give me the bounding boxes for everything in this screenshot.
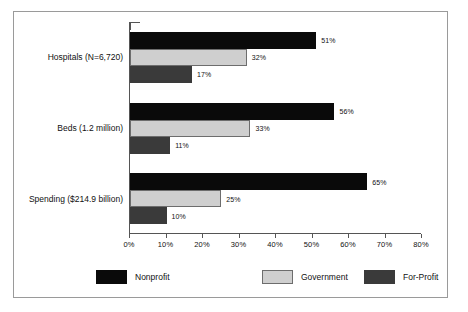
x-axis: 0%10%20%30%40%50%60%70%80% (129, 234, 421, 258)
x-axis-tick-label: 10% (158, 240, 173, 249)
x-axis-tick (421, 234, 422, 238)
plot-area: 51%32%17%56%33%11%65%25%10% (129, 22, 421, 234)
bar-government[interactable] (130, 49, 247, 66)
bar-row: 11% (130, 137, 421, 154)
legend-label: Government (301, 272, 348, 282)
x-axis-tick (385, 234, 386, 238)
legend-item-nonprofit[interactable]: Nonprofit (96, 270, 170, 284)
x-axis-tick (202, 234, 203, 238)
bar-group: 56%33%11% (130, 103, 421, 154)
bar-value-label: 56% (339, 108, 353, 115)
legend-item-government[interactable]: Government (262, 270, 348, 284)
bar-nonprofit[interactable] (130, 103, 334, 120)
bar-value-label: 10% (172, 212, 186, 219)
x-axis-tick-label: 80% (413, 240, 428, 249)
bar-value-label: 33% (255, 125, 269, 132)
bar-value-label: 11% (175, 142, 189, 149)
bar-nonprofit[interactable] (130, 173, 367, 190)
legend-swatch (262, 270, 293, 284)
bar-row: 33% (130, 120, 421, 137)
bar-row: 25% (130, 190, 421, 207)
x-axis-tick (239, 234, 240, 238)
chart-legend: NonprofitGovernmentFor-Profit (14, 270, 449, 296)
bar-row: 65% (130, 173, 421, 190)
bar-row: 10% (130, 207, 421, 224)
bar-for-profit[interactable] (130, 207, 167, 224)
legend-swatch (364, 270, 395, 284)
chart-figure: Hospitals (N=6,720)Beds (1.2 million)Spe… (13, 11, 448, 298)
bar-row: 51% (130, 32, 421, 49)
legend-label: For-Profit (403, 272, 438, 282)
category-label: Beds (1.2 million) (57, 123, 123, 133)
bar-for-profit[interactable] (130, 137, 170, 154)
x-axis-tick-label: 30% (231, 240, 246, 249)
x-axis-tick-label: 70% (377, 240, 392, 249)
bar-value-label: 25% (226, 195, 240, 202)
bar-value-label: 65% (372, 178, 386, 185)
bar-value-label: 17% (197, 71, 211, 78)
plot-frame-corner (130, 22, 140, 30)
bar-for-profit[interactable] (130, 66, 192, 83)
x-axis-tick (166, 234, 167, 238)
bar-row: 56% (130, 103, 421, 120)
legend-item-for-profit[interactable]: For-Profit (364, 270, 438, 284)
bar-value-label: 51% (321, 37, 335, 44)
x-axis-tick-label: 50% (304, 240, 319, 249)
category-axis-labels: Hospitals (N=6,720)Beds (1.2 million)Spe… (14, 22, 129, 234)
x-axis-tick-label: 40% (267, 240, 282, 249)
category-label: Spending ($214.9 billion) (29, 194, 123, 204)
bar-group: 65%25%10% (130, 173, 421, 224)
x-axis-tick-label: 60% (340, 240, 355, 249)
bar-row: 32% (130, 49, 421, 66)
x-axis-tick-label: 20% (194, 240, 209, 249)
bar-government[interactable] (130, 190, 221, 207)
bar-government[interactable] (130, 120, 250, 137)
x-axis-tick-label: 0% (123, 240, 134, 249)
bar-group: 51%32%17% (130, 32, 421, 83)
x-axis-tick (275, 234, 276, 238)
bar-value-label: 32% (252, 54, 266, 61)
x-axis-tick (129, 234, 130, 238)
legend-label: Nonprofit (135, 272, 170, 282)
legend-swatch (96, 270, 127, 284)
x-axis-tick (348, 234, 349, 238)
category-label: Hospitals (N=6,720) (48, 52, 123, 62)
x-axis-tick (312, 234, 313, 238)
bar-row: 17% (130, 66, 421, 83)
bar-nonprofit[interactable] (130, 32, 316, 49)
